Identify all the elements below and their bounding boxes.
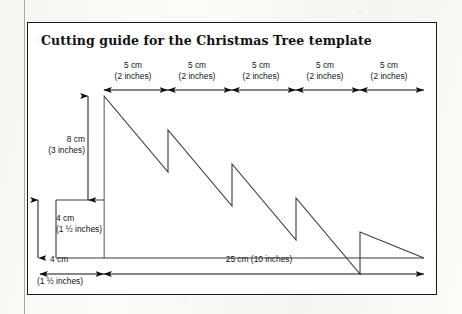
- cutting-guide-diagram: [0, 0, 462, 314]
- sawtooth-path: [104, 96, 424, 274]
- sawtooth-cutting-line: [104, 96, 424, 274]
- screenshot-page: Cutting guide for the Christmas Tree tem…: [0, 0, 462, 314]
